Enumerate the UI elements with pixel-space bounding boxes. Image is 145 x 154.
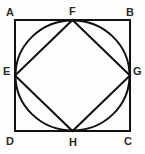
inscribed-circle: [16, 21, 130, 131]
vertex-label-c: C: [124, 136, 132, 147]
geometry-figure: A B C D E F G H: [0, 0, 145, 154]
vertex-label-g: G: [133, 66, 142, 77]
vertex-label-e: E: [3, 66, 11, 77]
vertex-label-h: H: [69, 137, 77, 148]
vertex-label-d: D: [6, 136, 14, 147]
figure-canvas: [0, 0, 145, 154]
vertex-label-f: F: [69, 6, 76, 17]
vertex-label-b: B: [126, 7, 134, 18]
vertex-label-a: A: [6, 7, 14, 18]
